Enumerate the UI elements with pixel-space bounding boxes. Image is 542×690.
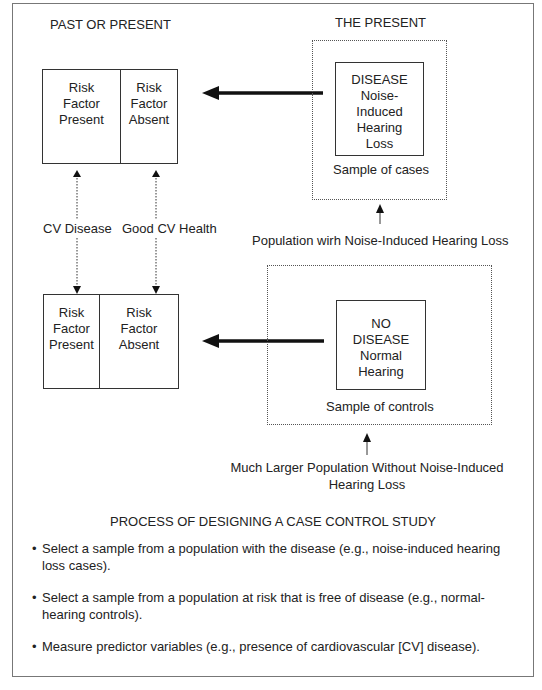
- no-disease-line: NO: [337, 316, 425, 332]
- disease-line: Hearing: [336, 120, 423, 136]
- sample-of-cases-label: Sample of cases: [333, 162, 429, 177]
- arrow-left-icon: [202, 334, 219, 348]
- arrow-up-icon: [152, 170, 160, 177]
- arrow-left-icon: [202, 86, 219, 100]
- arrow-down-icon: [152, 286, 160, 294]
- process-step: Select a sample from a population with t…: [32, 540, 522, 574]
- population-controls-line: Hearing Loss: [230, 476, 504, 493]
- process-title: PROCESS OF DESIGNING A CASE CONTROL STUD…: [12, 514, 534, 529]
- disease-line: DISEASE: [336, 72, 423, 88]
- disease-line: Induced: [336, 104, 423, 120]
- population-cases-label: Population wirh Noise-Induced Hearing Lo…: [252, 233, 509, 248]
- disease-line: Loss: [336, 136, 423, 152]
- arrow-up-icon: [363, 433, 371, 442]
- good-cv-health-label: Good CV Health: [122, 221, 217, 236]
- cv-disease-label: CV Disease: [43, 221, 112, 236]
- disease-line: Noise-: [336, 88, 423, 104]
- process-step: Measure predictor variables (e.g., prese…: [32, 638, 522, 655]
- arrow-up-icon: [73, 170, 81, 177]
- population-controls-line: Much Larger Population Without Noise-Ind…: [230, 459, 504, 476]
- process-steps-list: Select a sample from a population with t…: [32, 540, 522, 670]
- arrow-down-icon: [73, 286, 81, 294]
- no-disease-line: Hearing: [337, 364, 425, 380]
- no-disease-box: NO DISEASE Normal Hearing: [336, 300, 426, 390]
- sample-of-controls-label: Sample of controls: [326, 399, 434, 414]
- population-controls-label: Much Larger Population Without Noise-Ind…: [230, 459, 504, 493]
- process-step: Select a sample from a population at ris…: [32, 589, 522, 623]
- arrow-up-icon: [376, 204, 384, 213]
- disease-box: DISEASE Noise- Induced Hearing Loss: [335, 62, 424, 156]
- no-disease-line: Normal: [337, 348, 425, 364]
- no-disease-line: DISEASE: [337, 332, 425, 348]
